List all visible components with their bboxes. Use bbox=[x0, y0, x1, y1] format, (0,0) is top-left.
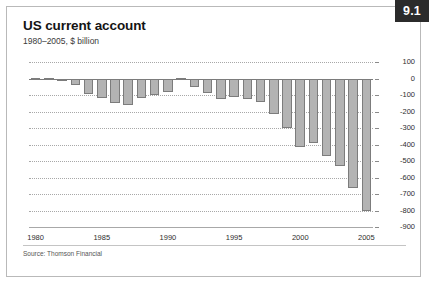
y-axis-label: 100 bbox=[381, 57, 415, 66]
y-axis-label: -700 bbox=[381, 189, 415, 198]
bar bbox=[150, 79, 160, 96]
y-axis-label: 0 bbox=[381, 74, 415, 83]
x-axis-label: 1990 bbox=[148, 233, 188, 242]
y-axis-tick bbox=[375, 145, 379, 146]
y-axis-tick bbox=[375, 79, 379, 80]
x-axis-label: 2005 bbox=[346, 233, 386, 242]
y-axis-tick bbox=[375, 128, 379, 129]
y-axis-label: -300 bbox=[381, 123, 415, 132]
y-axis-label: -100 bbox=[381, 90, 415, 99]
chart-page: 9.1 US current account 1980–2005, $ bill… bbox=[0, 0, 429, 285]
y-axis-label: -200 bbox=[381, 107, 415, 116]
bar bbox=[269, 79, 279, 114]
bar bbox=[295, 79, 305, 148]
bar bbox=[256, 79, 266, 102]
bar bbox=[282, 79, 292, 129]
page-title: US current account bbox=[23, 18, 146, 33]
y-axis-tick bbox=[375, 161, 379, 162]
gridline bbox=[29, 178, 373, 179]
x-axis-line bbox=[29, 227, 373, 228]
gridline bbox=[29, 194, 373, 195]
y-axis-tick bbox=[375, 62, 379, 63]
bar bbox=[203, 79, 213, 93]
gridline bbox=[29, 211, 373, 212]
bar bbox=[123, 79, 133, 106]
figure-number-badge: 9.1 bbox=[395, 0, 429, 22]
y-axis-label: -800 bbox=[381, 206, 415, 215]
bar bbox=[44, 78, 54, 80]
bar bbox=[163, 79, 173, 92]
y-axis-tick bbox=[375, 95, 379, 96]
bar bbox=[216, 79, 226, 99]
footer-divider bbox=[23, 245, 406, 246]
bar bbox=[97, 79, 107, 98]
bar bbox=[348, 79, 358, 189]
bar bbox=[84, 79, 94, 95]
y-axis-label: -400 bbox=[381, 140, 415, 149]
y-axis-tick bbox=[375, 112, 379, 113]
x-axis-label: 1995 bbox=[214, 233, 254, 242]
bar bbox=[31, 78, 41, 80]
bar bbox=[229, 79, 239, 98]
bar bbox=[362, 79, 372, 212]
page-subtitle: 1980–2005, $ billion bbox=[23, 36, 99, 46]
bar bbox=[322, 79, 332, 157]
bar bbox=[190, 79, 200, 87]
y-axis-label: -500 bbox=[381, 156, 415, 165]
bar bbox=[243, 79, 253, 100]
bar bbox=[71, 79, 81, 85]
bar bbox=[110, 79, 120, 103]
plot-area: 1000-100-200-300-400-500-600-700-800-900… bbox=[29, 62, 373, 227]
y-axis-tick bbox=[375, 227, 379, 228]
y-axis-label: -600 bbox=[381, 173, 415, 182]
bar bbox=[176, 78, 186, 80]
bar bbox=[137, 79, 147, 99]
gridline bbox=[29, 161, 373, 162]
bar bbox=[57, 79, 67, 81]
y-axis-tick bbox=[375, 194, 379, 195]
bar bbox=[309, 79, 319, 143]
x-axis-label: 1985 bbox=[82, 233, 122, 242]
y-axis-label: -900 bbox=[381, 222, 415, 231]
y-axis-tick bbox=[375, 211, 379, 212]
gridline bbox=[29, 62, 373, 63]
y-axis-tick bbox=[375, 178, 379, 179]
bar bbox=[335, 79, 345, 166]
x-axis-label: 2000 bbox=[280, 233, 320, 242]
x-axis-label: 1980 bbox=[16, 233, 56, 242]
source-note: Source: Thomson Financial bbox=[23, 250, 102, 257]
